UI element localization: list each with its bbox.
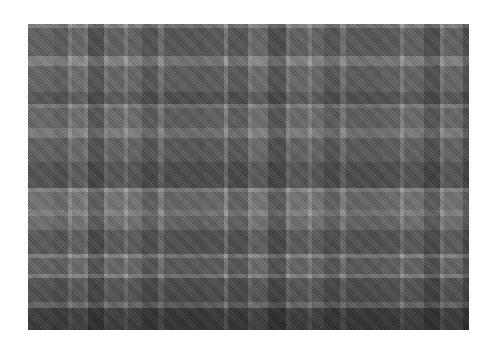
bottom-shading bbox=[28, 270, 469, 330]
right-edge-shadow bbox=[463, 24, 469, 330]
plaid-fabric-texture bbox=[28, 24, 469, 330]
